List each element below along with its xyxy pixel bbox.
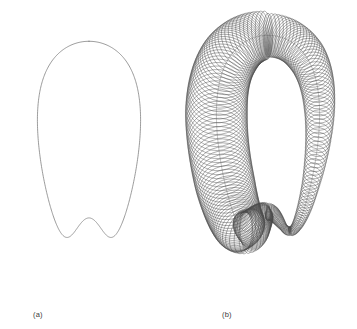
profile-curve-path	[37, 41, 140, 237]
canal-surface-drawing	[178, 0, 357, 329]
panel-b-caption: (b)	[222, 310, 232, 319]
figure-root: (a) (b)	[0, 0, 357, 329]
profile-curve-drawing	[0, 0, 178, 329]
panel-b-canal-surface	[178, 0, 356, 329]
canal-surface-circles	[184, 9, 337, 260]
panel-a-caption: (a)	[33, 310, 43, 319]
panel-a-profile-curve	[0, 0, 178, 329]
